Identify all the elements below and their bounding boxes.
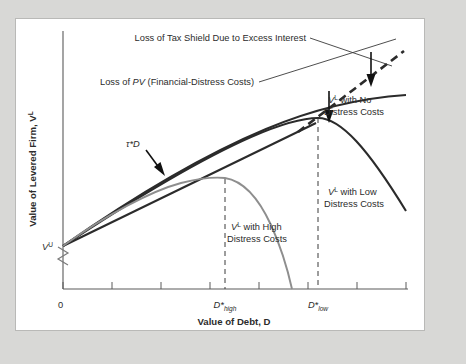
- figure-panel: Loss of Tax Shield Due to Excess Interes…: [15, 18, 425, 331]
- y-axis-title-text: Value of Levered Firm, V: [27, 115, 38, 227]
- label-curve-no-distress-text: with No: [338, 95, 372, 105]
- label-curve-low-distress-text: with Low: [338, 187, 377, 197]
- label-curve-no-distress-line2: Distress Costs: [324, 107, 384, 117]
- annotation-loss-of-pv: Loss of PV (Financial-Distress Costs): [100, 77, 254, 87]
- x-axis-title-text: Value of Debt, D: [197, 316, 270, 327]
- label-tau-star-d: τ*D: [126, 139, 140, 149]
- annotation-loss-of-pv-prefix: Loss of: [100, 77, 133, 87]
- label-v-unlevered: VU: [42, 241, 53, 253]
- y-axis-break-icon: [58, 247, 68, 265]
- arrow-loss-tax-shield: [367, 52, 376, 87]
- x-tick-label-d-star-high: D*high: [214, 300, 237, 313]
- axes-group: [63, 31, 408, 289]
- axis-origin-label: 0: [58, 300, 63, 310]
- label-curve-high-distress-line1: VL with High: [231, 221, 282, 233]
- y-axis-title: Value of Levered Firm, VL: [27, 111, 39, 226]
- figure-root: Loss of Tax Shield Due to Excess Interes…: [0, 0, 466, 364]
- x-tick-label-d-star-low: D*low: [308, 300, 329, 312]
- annotation-loss-of-tax-shield: Loss of Tax Shield Due to Excess Interes…: [135, 33, 307, 43]
- annotation-loss-of-pv-suffix: (Financial-Distress Costs): [145, 77, 254, 87]
- x-axis-ticks: [63, 282, 406, 289]
- tau-d-line-dashed-extension: [298, 51, 404, 132]
- annotation-loss-of-pv-italic: PV: [133, 77, 146, 87]
- trade-off-theory-chart: Loss of Tax Shield Due to Excess Interes…: [16, 19, 424, 330]
- x-tick-label-d-star-high-sub: high: [224, 305, 237, 313]
- x-tick-label-d-star-low-main: D*: [308, 300, 319, 310]
- x-tick-label-d-star-low-sub: low: [318, 305, 329, 312]
- label-curve-low-distress-line2: Distress Costs: [324, 199, 384, 209]
- label-v-unlevered-sup: U: [48, 241, 53, 248]
- y-axis-title-sup: L: [27, 111, 34, 115]
- label-curve-low-distress-line1: VL with Low: [328, 186, 377, 198]
- x-axis-title: Value of Debt, D: [197, 316, 270, 327]
- arrow-tau-d: [146, 150, 165, 176]
- label-curve-high-distress-line2: Distress Costs: [227, 234, 287, 244]
- label-curve-high-distress-text: with High: [241, 222, 282, 232]
- x-tick-label-d-star-high-main: D*: [214, 300, 225, 310]
